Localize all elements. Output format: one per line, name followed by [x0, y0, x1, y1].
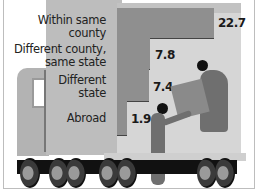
wheel-icon: [215, 158, 235, 188]
value-different-county-same-state: 7.8: [155, 48, 175, 62]
label-different-county-same-state: Different county, same state: [4, 43, 106, 69]
label-line: county: [14, 27, 106, 40]
label-abroad: Abroad: [14, 112, 106, 125]
mover-head-right: [197, 60, 208, 71]
value-abroad: 1.9: [131, 112, 151, 126]
label-line: same state: [4, 56, 106, 69]
bar-different-state: [117, 69, 149, 102]
wheel-icon: [117, 158, 137, 188]
wheel-icon: [66, 158, 86, 188]
label-within-same-county: Within same county: [14, 14, 106, 40]
label-different-state: Different state: [14, 74, 106, 100]
label-line: state: [14, 87, 106, 100]
bar-within-same-county: [117, 8, 214, 39]
wheel-icon: [197, 158, 217, 188]
bar-abroad: [117, 101, 127, 136]
bar-different-county-same-state: [117, 38, 150, 70]
label-line: Abroad: [14, 112, 106, 125]
wheel-icon: [20, 158, 40, 188]
chart-frame: Within same county Different county, sam…: [3, 0, 255, 189]
value-within-same-county: 22.7: [218, 16, 246, 30]
wheel-icon: [99, 158, 119, 188]
